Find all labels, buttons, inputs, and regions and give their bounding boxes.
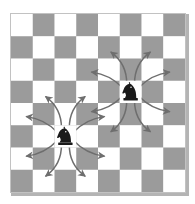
board-square xyxy=(11,148,33,171)
board-square xyxy=(33,170,55,193)
board-square xyxy=(163,59,185,82)
board-square xyxy=(11,103,33,126)
board-square xyxy=(98,14,120,37)
board-square xyxy=(11,81,33,104)
board-square xyxy=(33,36,55,59)
board-square xyxy=(163,125,185,148)
board-square xyxy=(33,59,55,82)
board-square xyxy=(55,148,77,171)
board-square xyxy=(11,36,33,59)
knight-eye xyxy=(130,87,132,89)
squares-layer xyxy=(11,14,186,193)
board-square xyxy=(11,59,33,82)
board-square xyxy=(120,170,142,193)
board-square xyxy=(98,81,120,104)
board-square xyxy=(142,125,164,148)
board-square xyxy=(120,14,142,37)
board-square xyxy=(98,125,120,148)
board-square xyxy=(142,170,164,193)
board-square xyxy=(33,14,55,37)
board-square xyxy=(11,125,33,148)
board-square xyxy=(55,103,77,126)
knight-base xyxy=(58,142,72,145)
board-square xyxy=(55,170,77,193)
board-square xyxy=(142,36,164,59)
knight-upper-right xyxy=(120,81,142,103)
board-square xyxy=(11,170,33,193)
board-square xyxy=(163,170,185,193)
board-square xyxy=(120,103,142,126)
board-square xyxy=(120,36,142,59)
board-square xyxy=(55,36,77,59)
board-square xyxy=(55,81,77,104)
board-square xyxy=(142,148,164,171)
board-square xyxy=(76,36,98,59)
board-square xyxy=(98,170,120,193)
board-square xyxy=(76,125,98,148)
board-square xyxy=(76,170,98,193)
board-square xyxy=(98,148,120,171)
board-square xyxy=(120,59,142,82)
board-square xyxy=(120,125,142,148)
board-square xyxy=(163,14,185,37)
board-square xyxy=(98,36,120,59)
board-square xyxy=(55,59,77,82)
knight-move-diagram xyxy=(0,0,195,204)
board-overlay xyxy=(0,0,195,204)
board-square xyxy=(76,59,98,82)
knight-eye xyxy=(65,131,67,133)
board-square xyxy=(33,125,55,148)
board-square xyxy=(163,148,185,171)
board-square xyxy=(163,103,185,126)
board-square xyxy=(163,36,185,59)
board-square xyxy=(33,81,55,104)
board-square xyxy=(76,81,98,104)
board-square xyxy=(142,14,164,37)
board-square xyxy=(11,14,33,37)
board-square xyxy=(163,81,185,104)
board-square xyxy=(142,81,164,104)
board-square xyxy=(76,14,98,37)
board-square xyxy=(55,14,77,37)
knight-base xyxy=(123,98,137,101)
board-square xyxy=(120,148,142,171)
knight-lower-left xyxy=(54,125,76,147)
